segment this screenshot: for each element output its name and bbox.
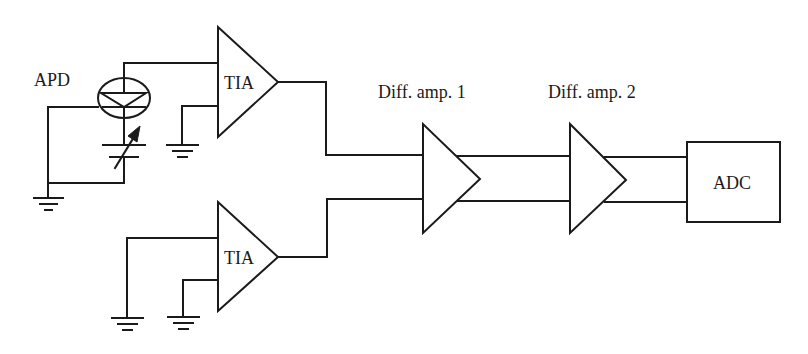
tia2-output-wire (278, 199, 423, 257)
ground-icon (34, 198, 63, 210)
apd-photodiode (98, 78, 150, 118)
diff-amp-1-label: Diff. amp. 1 (378, 82, 466, 102)
tia2-ref-wire (183, 280, 218, 317)
apd-label: APD (34, 70, 70, 90)
ground-icon (167, 145, 198, 157)
circuit-diagram: APD TIA TIA Di (0, 0, 808, 354)
diff-amp-2 (570, 124, 626, 233)
ground-icon (168, 317, 199, 329)
diff-amp-2-label: Diff. amp. 2 (548, 82, 636, 102)
adc-label: ADC (713, 173, 751, 193)
apd-side-wire (48, 107, 98, 198)
diff-amp-1 (423, 124, 480, 233)
variable-bias-supply-icon (103, 118, 145, 183)
ground-icon (112, 318, 143, 330)
tia-top-label: TIA (224, 73, 254, 93)
tia2-input-wire (127, 238, 218, 318)
tia-bottom-label: TIA (224, 248, 254, 268)
apd-to-tia-wire (124, 63, 218, 78)
tia1-ref-wire (182, 106, 218, 145)
